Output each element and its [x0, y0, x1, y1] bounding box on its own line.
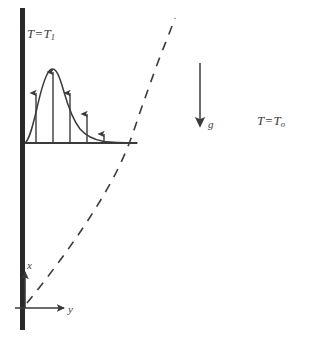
gravity-label: g	[208, 118, 214, 130]
figure-canvas	[0, 0, 310, 348]
hot-wall-equals: =	[34, 26, 43, 41]
axis-y-label: y	[68, 303, 73, 315]
ambient-equals: =	[264, 113, 273, 128]
ambient-subscript: o	[281, 119, 285, 129]
velocity-arrow-group	[36, 72, 104, 143]
hot-wall-subscript: 1	[51, 32, 55, 42]
velocity-profile-curve	[25, 69, 137, 143]
ambient-temperature-label: T=To	[257, 113, 285, 129]
boundary-layer-edge-curve	[27, 18, 175, 303]
axis-x-label: x	[27, 259, 32, 271]
hot-wall-temperature-label: T=T1	[27, 26, 55, 42]
ambient-value-symbol: T	[274, 113, 281, 128]
hot-wall-value-symbol: T	[44, 26, 51, 41]
convection-boundary-layer-figure: T=T1 T=To g x y	[0, 0, 310, 348]
